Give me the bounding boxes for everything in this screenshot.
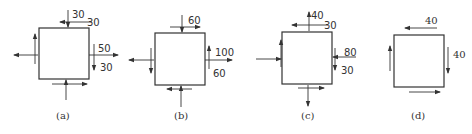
stress-element-square [282, 32, 332, 84]
label-right-normal: 50 [98, 43, 111, 54]
label-right-shear: 30 [341, 65, 354, 76]
label-top-normal: 30 [72, 9, 85, 20]
label-top-shear: 40 [425, 15, 438, 26]
label-right-shear: 60 [213, 68, 226, 79]
caption-d: (d) [411, 110, 425, 121]
caption-c: (c) [301, 110, 315, 121]
stress-elements-figure: 30 30 50 30 (a) 60 100 60 (b) [0, 0, 472, 134]
label-top-shear: 30 [324, 20, 337, 31]
label-right-shear: 40 [453, 49, 466, 60]
stress-element-square [155, 33, 205, 85]
panel-d: 40 40 (d) [390, 15, 466, 121]
caption-b: (b) [174, 110, 188, 121]
label-top-shear: 60 [188, 15, 201, 26]
stress-element-square [394, 35, 444, 87]
stress-element-square [39, 28, 89, 79]
label-right-shear: 30 [100, 62, 113, 73]
caption-a: (a) [56, 110, 70, 121]
label-right-normal: 100 [215, 47, 234, 58]
panel-a: 30 30 50 30 (a) [14, 9, 118, 121]
label-right-normal: 80 [344, 47, 357, 58]
label-top-normal: 40 [311, 10, 324, 21]
panel-c: 40 30 80 30 (c) [256, 10, 357, 121]
panel-b: 60 100 60 (b) [129, 15, 234, 121]
label-top-shear: 30 [87, 17, 100, 28]
